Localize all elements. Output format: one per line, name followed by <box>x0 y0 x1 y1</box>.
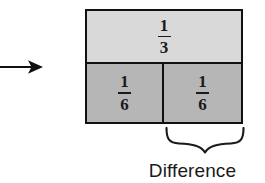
fraction-bar <box>158 36 171 38</box>
fraction-bar <box>196 92 209 94</box>
fraction-numerator: 1 <box>118 73 131 91</box>
model-row-top: 1 3 <box>87 11 241 64</box>
model-cell-part-left: 1 6 <box>87 64 164 122</box>
fraction-denominator: 3 <box>158 38 171 56</box>
right-arrow-icon <box>0 55 50 79</box>
difference-label: Difference <box>120 160 265 182</box>
fraction-bar <box>118 92 131 94</box>
model-row-bottom: 1 6 1 6 <box>87 64 241 122</box>
curly-brace-icon <box>163 127 247 155</box>
fraction-bar-model: 1 3 1 6 1 6 <box>85 9 243 124</box>
model-cell-whole: 1 3 <box>87 11 241 62</box>
fraction-numerator: 1 <box>196 73 209 91</box>
fraction-denominator: 6 <box>118 95 131 113</box>
fraction-one-third: 1 3 <box>158 17 171 57</box>
fraction-one-sixth-right: 1 6 <box>196 73 209 113</box>
fraction-denominator: 6 <box>196 95 209 113</box>
fraction-numerator: 1 <box>158 17 171 35</box>
fraction-one-sixth-left: 1 6 <box>118 73 131 113</box>
figure-canvas: 1 3 1 6 1 6 <box>0 0 265 183</box>
model-cell-part-right: 1 6 <box>164 64 241 122</box>
